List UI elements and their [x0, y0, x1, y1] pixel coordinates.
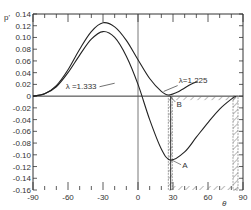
svg-text:0.06: 0.06: [15, 57, 31, 66]
svg-text:-30: -30: [97, 193, 109, 202]
svg-text:0.04: 0.04: [15, 69, 31, 78]
x-axis-label: θ: [222, 199, 227, 208]
y-axis-label: p': [4, 13, 10, 22]
svg-text:0.12: 0.12: [15, 22, 31, 31]
axis-ticks: 0.140.120.100.080.060.040.020-0.02-0.04-…: [13, 10, 248, 202]
svg-text:0: 0: [27, 92, 32, 101]
svg-text:-0.12: -0.12: [13, 163, 32, 172]
lambda-1225-label: λ=1.225: [179, 76, 208, 85]
annotations: λ =1.333λ=1.225BA: [66, 76, 208, 169]
hatched-region: [168, 96, 238, 190]
svg-text:-0.02: -0.02: [13, 104, 32, 113]
point-b-label: B: [177, 100, 182, 109]
svg-text:-0.10: -0.10: [13, 151, 32, 160]
svg-text:90: 90: [239, 193, 248, 202]
chart: 0.140.120.100.080.060.040.020-0.02-0.04-…: [0, 0, 251, 210]
svg-text:30: 30: [169, 193, 178, 202]
svg-text:0.02: 0.02: [15, 80, 31, 89]
plot-frame: [33, 14, 243, 190]
lambda-1333-label: λ =1.333: [66, 82, 97, 91]
svg-text:-0.08: -0.08: [13, 139, 32, 148]
svg-text:-60: -60: [62, 193, 74, 202]
svg-text:-0.14: -0.14: [13, 174, 32, 183]
svg-text:-90: -90: [27, 193, 39, 202]
svg-text:60: 60: [204, 193, 213, 202]
curves: [33, 23, 236, 160]
svg-text:-0.04: -0.04: [13, 116, 32, 125]
svg-text:0: 0: [136, 193, 141, 202]
point-a-label: A: [182, 161, 188, 170]
svg-text:0.10: 0.10: [15, 33, 31, 42]
svg-text:0.08: 0.08: [15, 45, 31, 54]
svg-text:-0.06: -0.06: [13, 127, 32, 136]
svg-text:0.14: 0.14: [15, 10, 31, 19]
